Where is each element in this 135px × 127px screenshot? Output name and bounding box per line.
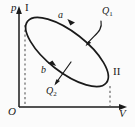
- heat-released-label: Q2: [46, 86, 57, 96]
- heat-released-subscript: 2: [53, 90, 57, 98]
- path-a-direction-arrowhead: [67, 19, 75, 25]
- heat-released-arrowhead: [54, 79, 60, 85]
- heat-released-arrow-shaft: [56, 62, 71, 83]
- origin-label: O: [8, 106, 16, 117]
- heat-absorbed-label: Q1: [102, 6, 113, 16]
- heat-absorbed-subscript: 1: [109, 10, 113, 18]
- heat-absorbed-arrow-shaft: [87, 21, 101, 44]
- pv-cycle-figure: p V O I II a b Q1 Q2: [0, 0, 135, 127]
- state-I-label: I: [25, 2, 29, 13]
- path-b-label: b: [41, 65, 46, 75]
- pressure-axis-label: p: [11, 2, 17, 13]
- cycle-ellipse: [15, 5, 118, 98]
- state-II-label: II: [113, 66, 120, 77]
- figure-canvas: [0, 0, 135, 127]
- volume-axis-label: V: [119, 108, 126, 119]
- path-a-label: a: [58, 10, 63, 20]
